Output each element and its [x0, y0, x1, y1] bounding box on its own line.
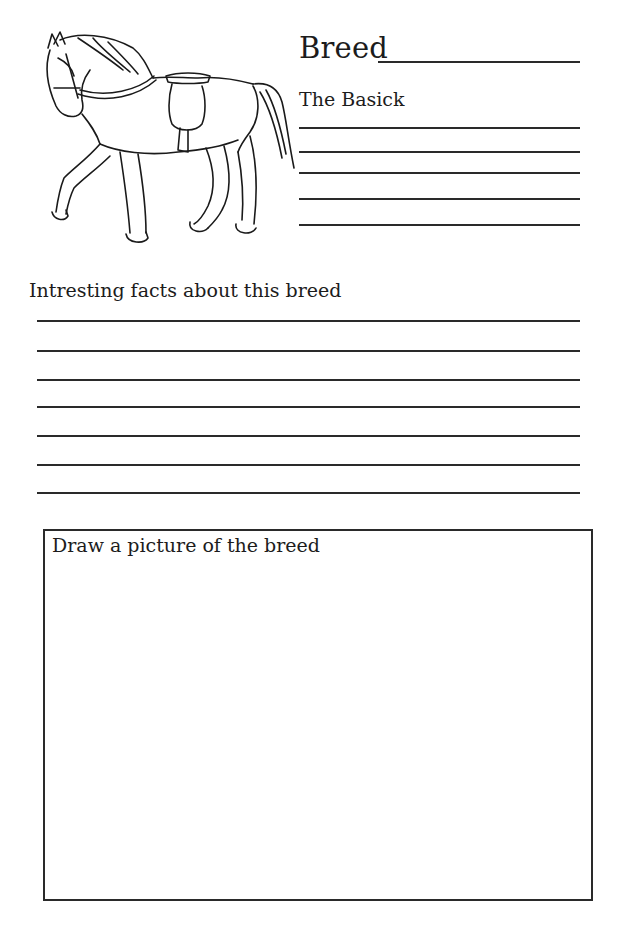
breed-answer-line[interactable]	[378, 61, 580, 63]
facts-line[interactable]	[37, 435, 580, 437]
facts-line[interactable]	[37, 492, 580, 494]
basics-line[interactable]	[299, 172, 580, 174]
basics-line[interactable]	[299, 224, 580, 226]
facts-line[interactable]	[37, 320, 580, 322]
facts-line[interactable]	[37, 464, 580, 466]
drawing-box[interactable]: Draw a picture of the breed	[43, 529, 593, 901]
facts-line[interactable]	[37, 406, 580, 408]
basics-line[interactable]	[299, 198, 580, 200]
basics-line[interactable]	[299, 127, 580, 129]
breed-title: Breed	[299, 30, 388, 66]
drawing-box-label: Draw a picture of the breed	[52, 533, 320, 557]
facts-line[interactable]	[37, 350, 580, 352]
facts-line[interactable]	[37, 379, 580, 381]
basics-line[interactable]	[299, 151, 580, 153]
facts-heading: Intresting facts about this breed	[29, 278, 342, 302]
horse-illustration	[38, 28, 296, 252]
basics-heading: The Basick	[299, 87, 404, 111]
